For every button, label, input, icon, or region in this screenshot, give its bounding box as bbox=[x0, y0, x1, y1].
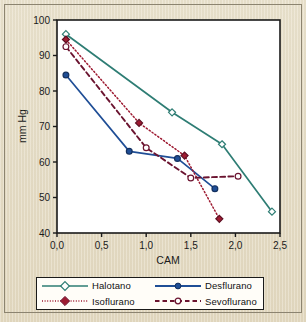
y-tick-label: 70 bbox=[39, 121, 51, 132]
legend-swatch-desflurano bbox=[154, 280, 202, 292]
data-point-marker bbox=[188, 175, 194, 181]
data-point-marker bbox=[126, 148, 132, 154]
x-tick-label: 0,0 bbox=[50, 240, 64, 251]
data-point-marker bbox=[235, 173, 241, 179]
line-chart-svg: 405060708090100 0,00,51,01,52,02,5 mm Hg… bbox=[0, 0, 306, 322]
data-point-marker bbox=[63, 44, 69, 50]
chart-legend: Halotano Desflurano Isoflurano bbox=[36, 277, 264, 310]
x-tick-label: 0,5 bbox=[95, 240, 109, 251]
data-point-marker bbox=[212, 186, 218, 192]
data-point-marker bbox=[63, 72, 69, 78]
x-tick-label: 1,0 bbox=[139, 240, 153, 251]
x-tick-label: 2,5 bbox=[273, 240, 287, 251]
legend-item-isoflurano[interactable]: Isoflurano bbox=[37, 295, 150, 307]
legend-swatch-halotano bbox=[41, 280, 89, 292]
y-tick-label: 50 bbox=[39, 192, 51, 203]
figure-root: 405060708090100 0,00,51,01,52,02,5 mm Hg… bbox=[0, 0, 306, 322]
y-axis-title: mm Hg bbox=[16, 109, 28, 143]
legend-swatch-isoflurano bbox=[41, 295, 89, 307]
y-axis-tick-labels: 405060708090100 bbox=[33, 15, 50, 239]
x-axis-tick-labels: 0,00,51,01,52,02,5 bbox=[50, 240, 287, 251]
x-tick-label: 2,0 bbox=[228, 240, 242, 251]
legend-swatch-sevoflurano bbox=[154, 295, 202, 307]
y-tick-label: 100 bbox=[33, 15, 50, 26]
data-point-marker bbox=[175, 156, 181, 162]
legend-item-desflurano[interactable]: Desflurano bbox=[150, 280, 263, 292]
legend-label-halotano: Halotano bbox=[92, 280, 131, 291]
legend-item-halotano[interactable]: Halotano bbox=[37, 280, 150, 292]
chart-figure: 405060708090100 0,00,51,01,52,02,5 mm Hg… bbox=[0, 0, 306, 322]
y-tick-label: 40 bbox=[39, 228, 51, 239]
legend-label-sevoflurano: Sevoflurano bbox=[205, 296, 257, 307]
legend-grid: Halotano Desflurano Isoflurano bbox=[37, 278, 263, 309]
legend-item-sevoflurano[interactable]: Sevoflurano bbox=[150, 295, 263, 307]
y-tick-label: 90 bbox=[39, 50, 51, 61]
x-axis-title: CAM bbox=[156, 254, 179, 266]
y-tick-label: 80 bbox=[39, 86, 51, 97]
legend-label-isoflurano: Isoflurano bbox=[92, 296, 135, 307]
x-tick-label: 1,5 bbox=[184, 240, 198, 251]
legend-label-desflurano: Desflurano bbox=[205, 280, 252, 291]
data-point-marker bbox=[143, 145, 149, 151]
y-tick-label: 60 bbox=[39, 157, 51, 168]
